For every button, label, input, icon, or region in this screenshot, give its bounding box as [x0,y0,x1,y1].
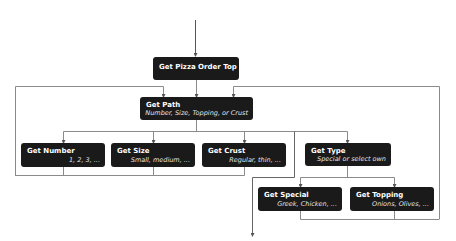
node-title: Get Pizza Order Top [159,63,237,71]
node-title: Get Crust [208,147,245,155]
node-subtitle: Regular, thin, ... [229,156,281,164]
node-get-number: Get Number 1, 2, 3, ... [21,143,105,167]
node-get-path: Get Path Number, Size, Topping, or Crust [140,97,253,120]
node-subtitle: Special or select own [317,155,386,163]
node-title: Get Size [117,147,150,155]
node-title: Get Special [264,191,309,199]
node-get-crust: Get Crust Regular, thin, ... [202,143,286,167]
node-get-type: Get Type Special or select own [305,143,391,166]
node-title: Get Number [27,147,75,155]
node-subtitle: 1, 2, 3, ... [69,156,100,164]
node-title: Get Path [146,101,180,109]
node-get-size: Get Size Small, medium, ... [111,143,195,167]
node-get-topping: Get Topping Onions, Olives, ... [350,187,434,211]
node-get-pizza-order-top: Get Pizza Order Top [153,57,239,80]
node-title: Get Topping [356,191,403,199]
node-subtitle: Number, Size, Topping, or Crust [145,109,248,117]
node-title: Get Type [311,147,346,155]
node-subtitle: Greek, Chicken, ... [277,200,337,208]
node-get-special: Get Special Greek, Chicken, ... [258,187,342,211]
node-subtitle: Onions, Olives, ... [372,200,429,208]
node-subtitle: Small, medium, ... [131,156,190,164]
